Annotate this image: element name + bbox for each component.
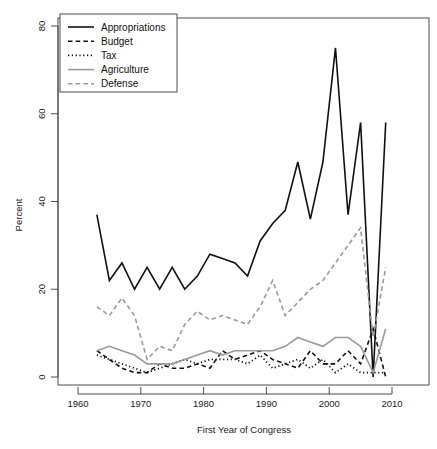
y-tick-label: 0 xyxy=(36,374,47,379)
y-tick-label: 40 xyxy=(36,196,47,207)
chart-container: 020406080 196019701980199020002010 Perce… xyxy=(0,0,437,449)
chart-legend: AppropriationsBudgetTaxAgricultureDefens… xyxy=(60,14,177,92)
x-tick-label: 1980 xyxy=(193,398,214,409)
x-tick-label: 1970 xyxy=(130,398,151,409)
y-tick-label: 60 xyxy=(36,108,47,119)
x-tick-label: 2010 xyxy=(381,398,402,409)
x-tick-label: 2000 xyxy=(319,398,340,409)
y-tick-label: 80 xyxy=(36,21,47,32)
legend-label-tax: Tax xyxy=(101,50,117,61)
legend-label-agriculture: Agriculture xyxy=(101,64,149,75)
legend-label-budget: Budget xyxy=(101,36,133,47)
line-chart: 020406080 196019701980199020002010 Perce… xyxy=(0,0,437,449)
legend-label-defense: Defense xyxy=(101,78,139,89)
x-axis-label: First Year of Congress xyxy=(197,424,291,435)
y-tick-label: 20 xyxy=(36,284,47,295)
legend-label-appropriations: Appropriations xyxy=(101,22,165,33)
x-tick-label: 1990 xyxy=(256,398,277,409)
x-tick-label: 1960 xyxy=(67,398,88,409)
y-axis-label: Percent xyxy=(13,198,24,231)
